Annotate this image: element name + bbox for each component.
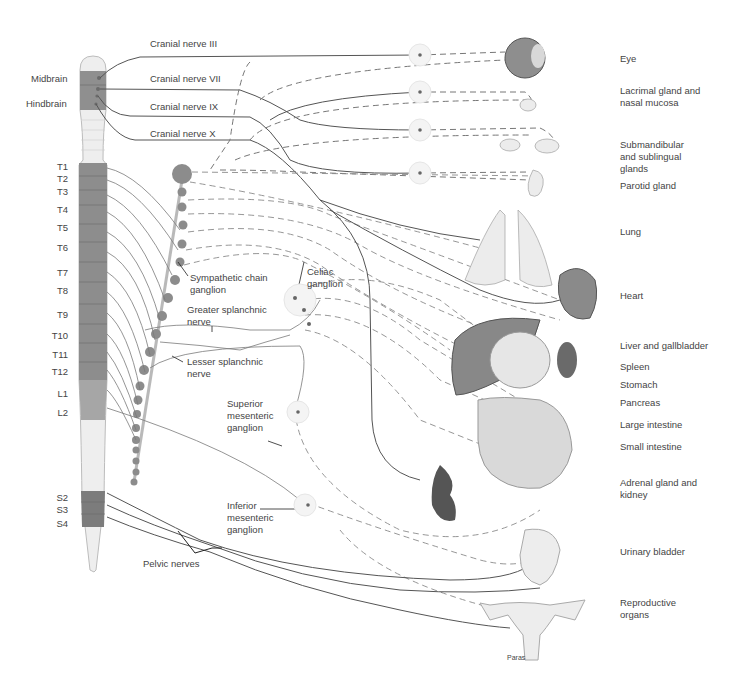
heart-illustration [558, 269, 596, 319]
footer-text: Paras [507, 652, 525, 664]
label-parotid-gland: Parotid gland [620, 180, 676, 192]
segment-l2: L2 [32, 407, 68, 418]
segment-t2: T2 [32, 173, 68, 184]
label-sympathetic-chain-ganglion: Sympathetic chain ganglion [190, 272, 290, 296]
label-heart: Heart [620, 290, 643, 302]
stomach-illustration [490, 332, 550, 388]
label-urinary-bladder: Urinary bladder [620, 546, 685, 558]
lacrimal-gland-illustration [520, 99, 536, 111]
label-small-intestine: Small intestine [620, 441, 682, 453]
label-cranial-nerve-iii: Cranial nerve III [150, 38, 217, 50]
label-inferior-mesenteric-ganglion: Inferior mesenteric ganglion [227, 500, 287, 536]
reproductive-organs-illustration [480, 600, 585, 660]
segment-t1: T1 [32, 161, 68, 172]
label-superior-mesenteric-ganglion: Superior mesenteric ganglion [227, 398, 287, 434]
kidney-illustration [432, 465, 456, 521]
segment-t8: T8 [32, 285, 68, 296]
segment-t9: T9 [32, 309, 68, 320]
eye-illustration [505, 38, 545, 78]
spinal-cord [79, 56, 107, 572]
intestine-illustration [478, 398, 572, 489]
segment-t10: T10 [32, 330, 68, 341]
submandibular-gland-illustration [500, 139, 520, 151]
label-cranial-nerve-ix: Cranial nerve IX [150, 101, 218, 113]
segment-t3: T3 [32, 186, 68, 197]
segment-t7: T7 [32, 267, 68, 278]
label-cranial-nerve-x: Cranial nerve X [150, 128, 215, 140]
label-hindbrain: Hindbrain [26, 98, 67, 110]
label-eye: Eye [620, 53, 636, 65]
label-stomach: Stomach [620, 379, 658, 391]
label-spleen: Spleen [620, 361, 650, 373]
label-pelvic-nerves: Pelvic nerves [143, 558, 200, 570]
label-cranial-nerve-vii: Cranial nerve VII [150, 73, 221, 85]
segment-t4: T4 [32, 204, 68, 215]
segment-t12: T12 [32, 366, 68, 377]
segment-t6: T6 [32, 242, 68, 253]
label-reproductive-organs: Reproductive organs [620, 597, 690, 621]
spleen-illustration [557, 342, 577, 378]
postganglionic-paths [210, 52, 555, 180]
label-midbrain: Midbrain [31, 73, 67, 85]
segment-s2: S2 [32, 492, 68, 503]
label-lesser-splanchnic-nerve: Lesser splanchnic nerve [187, 356, 279, 380]
segment-t11: T11 [32, 349, 68, 360]
label-submandibular-glands: Submandibular and sublingual glands [620, 139, 695, 175]
label-lacrimal-gland: Lacrimal gland and nasal mucosa [620, 85, 720, 109]
segment-s3: S3 [32, 504, 68, 515]
segment-l1: L1 [32, 388, 68, 399]
segment-s4: S4 [32, 518, 68, 529]
label-liver-gallbladder: Liver and gallbladder [620, 340, 708, 352]
urinary-bladder-illustration [520, 529, 560, 585]
label-large-intestine: Large intestine [620, 419, 682, 431]
lung-illustration [465, 210, 552, 287]
label-celiac-ganglion: Celiac ganglion [307, 266, 357, 290]
parotid-gland-illustration [528, 170, 543, 196]
label-lung: Lung [620, 226, 641, 238]
label-greater-splanchnic-nerve: Greater splanchnic nerve [187, 304, 279, 328]
segment-t5: T5 [32, 222, 68, 233]
label-adrenal-kidney: Adrenal gland and kidney [620, 477, 700, 501]
sublingual-gland-illustration [535, 139, 559, 153]
label-pancreas: Pancreas [620, 397, 660, 409]
